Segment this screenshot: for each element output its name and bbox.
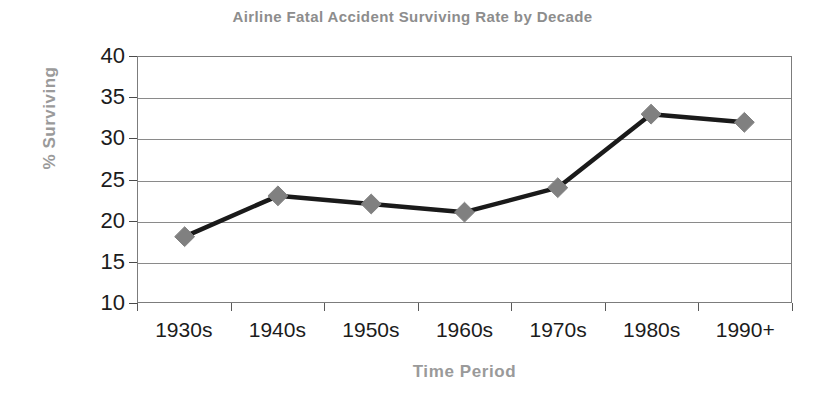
y-axis-tick-label: 40 (73, 45, 125, 67)
y-axis-tick-label: 35 (73, 86, 125, 108)
x-axis-tick-label: 1930s (155, 318, 212, 342)
x-axis-tick-mark (137, 303, 138, 311)
data-point-marker: 1950s: 22 (361, 194, 381, 214)
x-axis-title: Time Period (137, 362, 792, 382)
y-axis-tick-label: 20 (73, 210, 125, 232)
x-axis-tick-label: 1990+ (716, 318, 775, 342)
y-axis-tick-label: 25 (73, 169, 125, 191)
y-axis-tick-label: 30 (73, 127, 125, 149)
y-axis-tick-mark (129, 56, 137, 57)
data-point-marker: 1990+: 32 (734, 112, 754, 132)
x-axis-tick-mark (231, 303, 232, 311)
chart-title: Airline Fatal Accident Surviving Rate by… (0, 8, 825, 25)
chart-container: Airline Fatal Accident Surviving Rate by… (0, 0, 825, 402)
x-axis-tick-mark (324, 303, 325, 311)
x-axis-tick-label: 1960s (436, 318, 493, 342)
x-axis-tick-mark (511, 303, 512, 311)
y-axis-tick-mark (129, 262, 137, 263)
y-axis-tick-mark (129, 97, 137, 98)
x-axis-tick-label: 1940s (249, 318, 306, 342)
x-axis-tick-mark (605, 303, 606, 311)
data-series-line: 1930s: 181940s: 231950s: 221960s: 211970… (138, 57, 791, 302)
y-axis-tick-mark (129, 138, 137, 139)
x-axis-tick-label: 1980s (623, 318, 680, 342)
x-axis-tick-mark (792, 303, 793, 311)
y-axis-tick-mark (129, 221, 137, 222)
y-axis-tick-label: 10 (73, 292, 125, 314)
x-axis-tick-label: 1950s (342, 318, 399, 342)
data-point-marker: 1960s: 21 (455, 202, 475, 222)
y-axis-tick-mark (129, 180, 137, 181)
data-point-marker: 1930s: 18 (175, 227, 195, 247)
x-axis-tick-mark (698, 303, 699, 311)
plot-area: 1930s: 181940s: 231950s: 221960s: 211970… (137, 56, 792, 303)
data-point-marker: 1940s: 23 (268, 186, 288, 206)
x-axis-tick-label: 1970s (529, 318, 586, 342)
y-axis-title: % Surviving (40, 43, 60, 193)
y-axis-tick-mark (129, 303, 137, 304)
x-axis-tick-mark (418, 303, 419, 311)
y-axis-tick-label: 15 (73, 251, 125, 273)
